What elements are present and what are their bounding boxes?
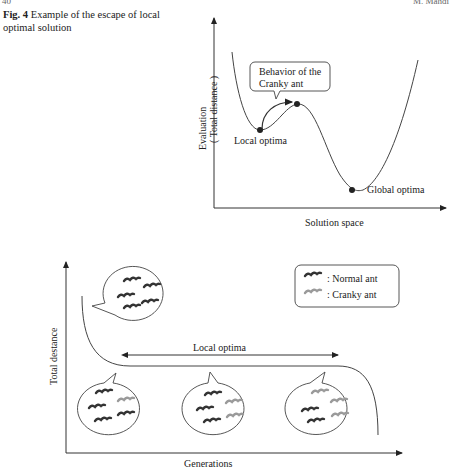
callout-line-2: Cranky ant [259, 78, 303, 89]
global-optima-label: Global optima [367, 184, 425, 195]
legend-box [295, 265, 399, 307]
legend-normal-label: : Normal ant [327, 273, 378, 284]
range-label: Local optima [193, 342, 247, 353]
local-optima-label: Local optima [234, 135, 288, 146]
figure-canvas: Evaluation ( Total distance ) Solution s… [0, 0, 453, 471]
y-axis-label-1: Evaluation [197, 107, 208, 150]
bottom-diagram: Total destance Generations Local optima … [48, 262, 402, 469]
escape-arrow [262, 102, 292, 129]
ant-bubble-middle [182, 372, 244, 435]
x-axis-label: Solution space [305, 217, 364, 228]
ant-bubble-early [78, 373, 140, 435]
ant-bubble-late [285, 372, 348, 435]
callout-line-1: Behavior of the [259, 66, 322, 77]
y-axis-label-2: ( Total distance ) [208, 76, 220, 143]
ant-bubble-start [92, 266, 163, 320]
x-axis-label-bottom: Generations [184, 458, 232, 469]
y-axis-label-bottom: Total destance [48, 327, 59, 385]
legend-cranky-label: : Cranky ant [327, 289, 377, 300]
global-optima-point [349, 187, 355, 193]
local-optima-point [257, 127, 263, 133]
top-diagram: Evaluation ( Total distance ) Solution s… [197, 18, 446, 228]
peak-point [294, 101, 300, 107]
